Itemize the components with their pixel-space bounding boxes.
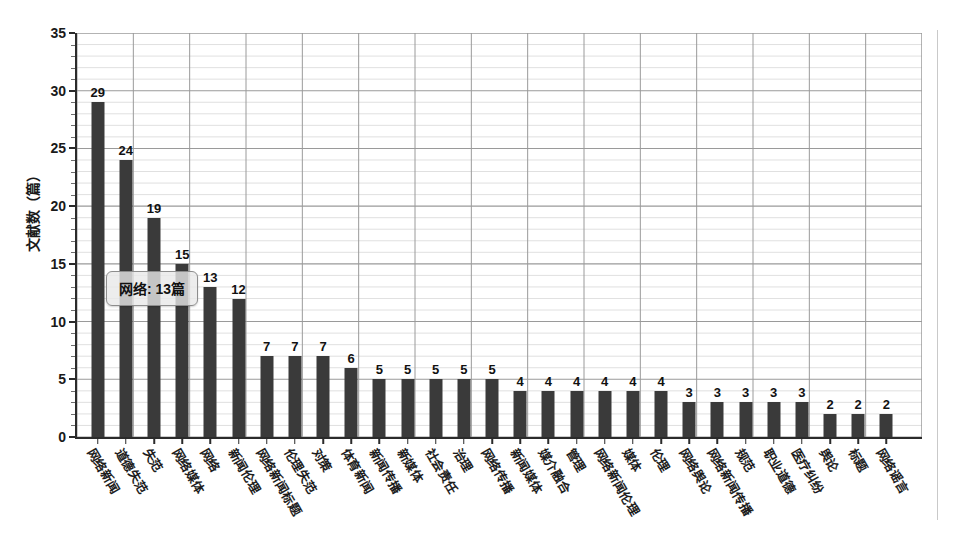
x-tick-mark bbox=[745, 437, 747, 444]
y-minor-tick-mark bbox=[71, 172, 75, 173]
bar-slot[interactable]: 5 bbox=[450, 33, 477, 437]
bar[interactable] bbox=[795, 402, 808, 437]
x-tick-label: 网络谣言 bbox=[872, 444, 914, 498]
bar-slot[interactable]: 3 bbox=[732, 33, 759, 437]
bar[interactable] bbox=[598, 391, 611, 437]
bar[interactable] bbox=[204, 287, 217, 437]
bar-value-label: 4 bbox=[573, 374, 580, 389]
y-tick-label: 25 bbox=[0, 140, 66, 156]
bar[interactable] bbox=[401, 379, 414, 437]
bar-value-label: 4 bbox=[545, 374, 552, 389]
bar[interactable] bbox=[317, 356, 330, 437]
bar[interactable] bbox=[91, 102, 104, 437]
x-tick-label: 对策 bbox=[309, 444, 338, 476]
bar-slot[interactable]: 4 bbox=[563, 33, 590, 437]
bar[interactable] bbox=[739, 402, 752, 437]
bar-slot[interactable]: 4 bbox=[619, 33, 646, 437]
bar-slot[interactable]: 7 bbox=[253, 33, 280, 437]
bar-value-label: 5 bbox=[432, 362, 439, 377]
x-tick-label: 媒体 bbox=[619, 444, 648, 476]
bar-value-label: 3 bbox=[686, 385, 693, 400]
bar-slot[interactable]: 2 bbox=[816, 33, 843, 437]
y-minor-tick-mark bbox=[71, 137, 75, 138]
bar[interactable] bbox=[542, 391, 555, 437]
bar-slot[interactable]: 24 bbox=[112, 33, 139, 437]
bar[interactable] bbox=[880, 414, 893, 437]
bar-slot[interactable]: 4 bbox=[647, 33, 674, 437]
x-tick-mark bbox=[519, 437, 521, 444]
bar[interactable] bbox=[373, 379, 386, 437]
x-tick-mark bbox=[379, 437, 381, 444]
x-tick-mark bbox=[773, 437, 775, 444]
y-minor-tick-mark bbox=[71, 298, 75, 299]
y-tick-label: 0 bbox=[0, 429, 66, 445]
bar[interactable] bbox=[345, 368, 358, 437]
y-tick-label: 30 bbox=[0, 83, 66, 99]
bar-slot[interactable]: 7 bbox=[309, 33, 336, 437]
y-minor-tick-mark bbox=[71, 114, 75, 115]
bar-value-label: 12 bbox=[231, 282, 245, 297]
bar[interactable] bbox=[767, 402, 780, 437]
plot-area: 29241915131277765555544444433333222 bbox=[75, 33, 922, 439]
y-minor-tick-mark bbox=[71, 102, 75, 103]
bar-slot[interactable]: 5 bbox=[394, 33, 421, 437]
bar[interactable] bbox=[260, 356, 273, 437]
bar-slot[interactable]: 3 bbox=[676, 33, 703, 437]
x-tick-mark bbox=[210, 437, 212, 444]
bar[interactable] bbox=[655, 391, 668, 437]
x-tick-mark bbox=[886, 437, 888, 444]
page-border-line bbox=[937, 30, 938, 520]
bar[interactable] bbox=[626, 391, 639, 437]
x-tick-mark bbox=[688, 437, 690, 444]
bar[interactable] bbox=[852, 414, 865, 437]
bar-slot[interactable]: 5 bbox=[422, 33, 449, 437]
bar-slot[interactable]: 3 bbox=[788, 33, 815, 437]
bar-slot[interactable]: 2 bbox=[873, 33, 900, 437]
y-tick-mark bbox=[69, 436, 75, 438]
y-minor-tick-mark bbox=[71, 68, 75, 69]
x-tick-mark bbox=[463, 437, 465, 444]
bar[interactable] bbox=[570, 391, 583, 437]
x-tick-mark bbox=[266, 437, 268, 444]
bar-slot[interactable]: 13 bbox=[197, 33, 224, 437]
bar[interactable] bbox=[514, 391, 527, 437]
bar-slot[interactable]: 6 bbox=[338, 33, 365, 437]
bar[interactable] bbox=[232, 299, 245, 438]
bar-value-label: 4 bbox=[601, 374, 608, 389]
bar[interactable] bbox=[711, 402, 724, 437]
bar-slot[interactable]: 4 bbox=[591, 33, 618, 437]
bar-value-label: 4 bbox=[657, 374, 664, 389]
x-tick-mark bbox=[604, 437, 606, 444]
y-tick-label: 20 bbox=[0, 198, 66, 214]
bar-slot[interactable]: 4 bbox=[507, 33, 534, 437]
bar-slot[interactable]: 2 bbox=[845, 33, 872, 437]
bar-slot[interactable]: 15 bbox=[169, 33, 196, 437]
bar-value-label: 2 bbox=[826, 397, 833, 412]
bar[interactable] bbox=[288, 356, 301, 437]
bar-value-label: 4 bbox=[517, 374, 524, 389]
bar-slot[interactable]: 19 bbox=[140, 33, 167, 437]
bar[interactable] bbox=[457, 379, 470, 437]
bar-slot[interactable]: 29 bbox=[84, 33, 111, 437]
x-tick-mark bbox=[801, 437, 803, 444]
bar[interactable] bbox=[429, 379, 442, 437]
bar-slot[interactable]: 12 bbox=[225, 33, 252, 437]
bar[interactable] bbox=[148, 218, 161, 437]
bars-layer: 29241915131277765555544444433333222 bbox=[77, 33, 922, 437]
bar-chart: 文献数（篇） 292419151312777655555444444333332… bbox=[0, 0, 980, 560]
y-minor-tick-mark bbox=[71, 402, 75, 403]
bar-slot[interactable]: 3 bbox=[704, 33, 731, 437]
bar-slot[interactable]: 3 bbox=[760, 33, 787, 437]
bar[interactable] bbox=[486, 379, 499, 437]
bar-slot[interactable]: 4 bbox=[535, 33, 562, 437]
data-tooltip: 网络: 13篇 bbox=[106, 271, 198, 306]
bar-slot[interactable]: 5 bbox=[478, 33, 505, 437]
y-minor-tick-mark bbox=[71, 241, 75, 242]
y-tick-mark bbox=[69, 263, 75, 265]
x-tick-label: 舆论 bbox=[816, 444, 845, 476]
x-tick-mark bbox=[322, 437, 324, 444]
bar[interactable] bbox=[824, 414, 837, 437]
bar-slot[interactable]: 5 bbox=[366, 33, 393, 437]
bar[interactable] bbox=[683, 402, 696, 437]
bar-slot[interactable]: 7 bbox=[281, 33, 308, 437]
